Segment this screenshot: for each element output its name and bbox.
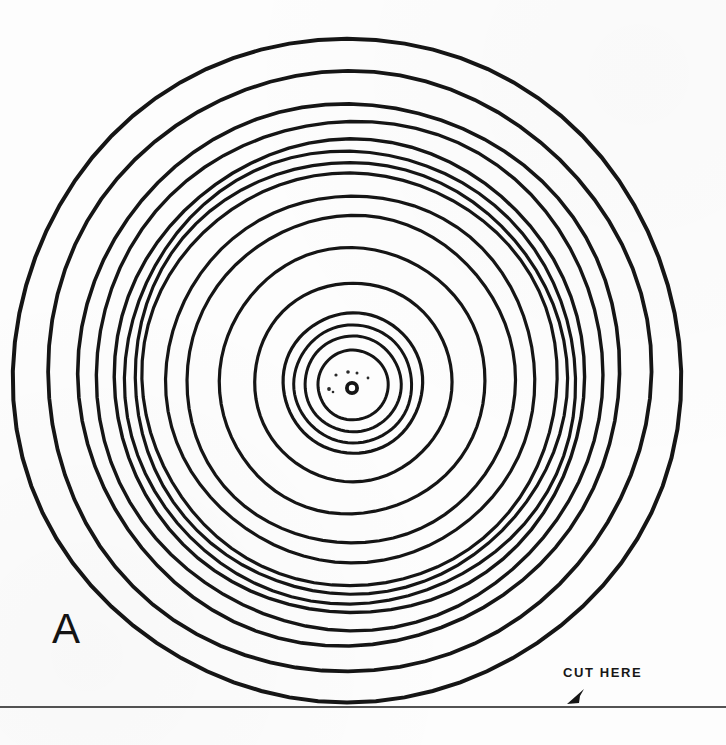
diagram-page: A CUT HERE xyxy=(0,0,726,745)
ring-7 xyxy=(135,163,567,595)
ring-6 xyxy=(124,151,575,604)
ring-10 xyxy=(187,215,516,543)
ring-2 xyxy=(48,71,651,672)
ring-4 xyxy=(96,121,603,630)
concentric-circles-figure xyxy=(0,0,726,745)
ring-11 xyxy=(219,248,485,514)
ring-3 xyxy=(78,104,620,646)
cut-here-caption: CUT HERE xyxy=(563,665,642,680)
speck-5 xyxy=(327,387,331,391)
center-spindle-hole-icon xyxy=(345,381,359,395)
cut-arrow-icon xyxy=(567,689,584,704)
panel-letter-label: A xyxy=(52,608,80,650)
ring-8 xyxy=(142,173,557,586)
speck-4 xyxy=(367,377,370,380)
speck-1 xyxy=(334,373,337,376)
center-hole-inner xyxy=(349,385,355,391)
speck-2 xyxy=(346,370,350,374)
speck-3 xyxy=(356,372,359,375)
speck-6 xyxy=(332,391,335,394)
arrow-head xyxy=(567,689,584,704)
